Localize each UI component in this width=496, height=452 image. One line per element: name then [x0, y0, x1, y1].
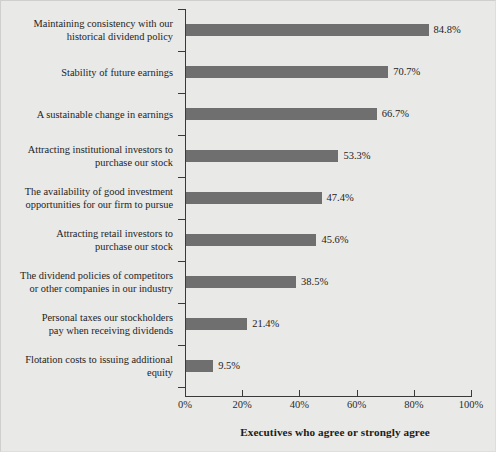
- category-label-line: historical dividend policy: [67, 30, 173, 43]
- bar: [186, 150, 338, 162]
- category-label-line: Flotation costs to issuing additional: [25, 353, 173, 366]
- bar: [186, 108, 377, 120]
- x-axis-tick-label: 80%: [404, 399, 423, 410]
- bar: [186, 276, 296, 288]
- x-axis-tick: [414, 390, 415, 397]
- chart-figure: 0%20%40%60%80%100% Maintaining consisten…: [0, 0, 496, 452]
- category-label: The availability of good investmentoppor…: [7, 177, 173, 219]
- category-label: Personal taxes our stockholderspay when …: [7, 303, 173, 345]
- bar: [186, 24, 429, 36]
- x-axis-tick-label: 20%: [233, 399, 252, 410]
- category-label: Flotation costs to issuing additionalequ…: [7, 345, 173, 387]
- bar-row: The dividend policies of competitorsor o…: [1, 261, 496, 303]
- bar-row: Stability of future earnings70.7%: [1, 51, 496, 93]
- x-axis-tick-label: 100%: [459, 399, 484, 410]
- category-label-line: Stability of future earnings: [61, 66, 173, 79]
- category-label: The dividend policies of competitorsor o…: [7, 261, 173, 303]
- bar-value-label: 21.4%: [252, 317, 279, 330]
- x-axis-tick: [299, 390, 300, 397]
- x-axis-tick-label: 40%: [290, 399, 309, 410]
- category-label-line: purchase our stock: [95, 240, 173, 253]
- bar-value-label: 70.7%: [393, 65, 420, 78]
- bar-row: Attracting institutional investors topur…: [1, 135, 496, 177]
- category-label-line: or other companies in our industry: [30, 282, 173, 295]
- bar-value-label: 84.8%: [434, 23, 461, 36]
- category-label-line: Maintaining consistency with our: [34, 17, 173, 30]
- category-label: Attracting institutional investors topur…: [7, 135, 173, 177]
- x-axis-tick: [185, 390, 186, 397]
- category-label-line: The availability of good investment: [25, 185, 173, 198]
- category-label-line: equity: [147, 366, 173, 379]
- category-label-line: Attracting retail investors to: [56, 227, 173, 240]
- x-axis-line: [185, 396, 472, 397]
- bar-row: A sustainable change in earnings66.7%: [1, 93, 496, 135]
- category-label-line: Attracting institutional investors to: [28, 143, 173, 156]
- y-axis-tick: [178, 387, 185, 388]
- x-axis-tick: [357, 390, 358, 397]
- bar-value-label: 9.5%: [218, 359, 240, 372]
- category-label: Maintaining consistency with ourhistoric…: [7, 9, 173, 51]
- plot-area: 0%20%40%60%80%100% Maintaining consisten…: [1, 1, 496, 452]
- category-label: Attracting retail investors topurchase o…: [7, 219, 173, 261]
- bar-row: Attracting retail investors topurchase o…: [1, 219, 496, 261]
- bar: [186, 360, 213, 372]
- x-axis-tick-label: 0%: [178, 399, 192, 410]
- bar: [186, 192, 322, 204]
- x-axis-title: Executives who agree or strongly agree: [185, 426, 485, 438]
- category-label-line: Personal taxes our stockholders: [42, 311, 173, 324]
- bar-row: The availability of good investmentoppor…: [1, 177, 496, 219]
- bar: [186, 234, 316, 246]
- x-axis-tick: [242, 390, 243, 397]
- category-label: A sustainable change in earnings: [7, 93, 173, 135]
- bar: [186, 66, 388, 78]
- bar-row: Flotation costs to issuing additionalequ…: [1, 345, 496, 387]
- category-label-line: pay when receiving dividends: [49, 324, 173, 337]
- bar-value-label: 45.6%: [321, 233, 348, 246]
- bar-row: Personal taxes our stockholderspay when …: [1, 303, 496, 345]
- x-axis-tick-label: 60%: [347, 399, 366, 410]
- category-label-line: opportunities for our firm to pursue: [26, 198, 173, 211]
- bar-value-label: 53.3%: [343, 149, 370, 162]
- category-label-line: purchase our stock: [95, 156, 173, 169]
- bar-row: Maintaining consistency with ourhistoric…: [1, 9, 496, 51]
- bar: [186, 318, 247, 330]
- category-label-line: The dividend policies of competitors: [20, 269, 173, 282]
- bar-value-label: 66.7%: [382, 107, 409, 120]
- category-label: Stability of future earnings: [7, 51, 173, 93]
- category-label-line: A sustainable change in earnings: [37, 108, 173, 121]
- bar-value-label: 38.5%: [301, 275, 328, 288]
- x-axis-tick: [471, 390, 472, 397]
- bar-value-label: 47.4%: [327, 191, 354, 204]
